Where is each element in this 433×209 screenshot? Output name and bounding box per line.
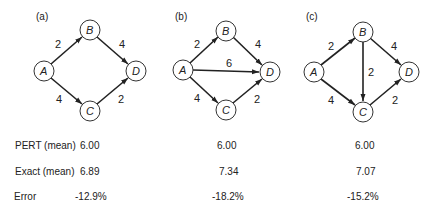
value-b: 7.34: [219, 166, 238, 177]
svg-text:C: C: [359, 106, 367, 118]
value-c: 6.00: [355, 140, 374, 151]
edge-c-ab: [321, 38, 355, 65]
weight-c-bc: 2: [368, 66, 374, 78]
value-a: 6.89: [80, 166, 99, 177]
row-label: PERT (mean): [15, 140, 76, 151]
svg-text:A: A: [309, 66, 317, 78]
node-b-A: A: [173, 60, 193, 80]
weight-c-ab: 2: [328, 40, 334, 52]
diagram-a: (a) 2 4 4 2 A B C D: [34, 11, 146, 121]
node-c-A: A: [304, 62, 324, 82]
weight-b-ad: 6: [226, 57, 232, 69]
table-row-exact: Exact (mean) 6.89 7.34 7.07: [0, 166, 433, 180]
svg-text:B: B: [359, 26, 366, 38]
node-b-C: C: [216, 100, 236, 120]
diagram-c: (c) 2 4 2 4 2 A B C D: [304, 11, 419, 122]
svg-text:A: A: [39, 65, 47, 77]
node-c-B: B: [353, 22, 373, 42]
diagram-c-label: (c): [306, 11, 318, 22]
node-a-B: B: [80, 20, 100, 40]
table-row-pert: PERT (mean) 6.00 6.00 6.00: [0, 140, 433, 154]
svg-text:D: D: [405, 66, 413, 78]
node-c-D: D: [399, 62, 419, 82]
weight-c-ac: 4: [328, 94, 334, 106]
weight-a-cd: 2: [118, 93, 124, 105]
node-a-D: D: [126, 61, 146, 81]
weight-b-ab: 2: [194, 38, 200, 50]
node-a-A: A: [34, 61, 54, 81]
diagram-b: (b) 2 4 6 4 2 A B C D: [173, 11, 280, 120]
weight-b-bd: 4: [255, 38, 261, 50]
node-c-C: C: [353, 102, 373, 122]
diagram-a-label: (a): [36, 11, 48, 22]
svg-text:B: B: [86, 24, 93, 36]
value-a: -12.9%: [75, 191, 107, 202]
svg-text:D: D: [132, 65, 140, 77]
svg-text:A: A: [178, 64, 186, 76]
node-b-B: B: [216, 21, 236, 41]
table-row-error: Error -12.9% -18.2% -15.2%: [0, 191, 433, 205]
edge-b-ad: [193, 70, 259, 72]
svg-text:C: C: [222, 104, 230, 116]
node-b-D: D: [260, 62, 280, 82]
node-a-C: C: [80, 101, 100, 121]
value-c: -15.2%: [347, 191, 379, 202]
value-a: 6.00: [80, 140, 99, 151]
row-label: Exact (mean): [15, 166, 74, 177]
svg-text:B: B: [222, 25, 229, 37]
diagram-b-label: (b): [175, 11, 187, 22]
svg-text:D: D: [266, 66, 274, 78]
weight-c-bd: 4: [391, 40, 397, 52]
weight-b-ac: 4: [194, 92, 200, 104]
value-c: 7.07: [356, 166, 375, 177]
weight-b-cd: 2: [254, 93, 260, 105]
value-b: -18.2%: [212, 191, 244, 202]
value-b: 6.00: [217, 140, 236, 151]
weight-a-ab: 2: [55, 38, 61, 50]
edge-c-ac: [321, 79, 355, 105]
weight-c-cd: 2: [392, 94, 398, 106]
row-label: Error: [14, 191, 36, 202]
weight-a-ac: 4: [56, 93, 62, 105]
svg-text:C: C: [86, 105, 94, 117]
weight-a-bd: 4: [119, 38, 125, 50]
